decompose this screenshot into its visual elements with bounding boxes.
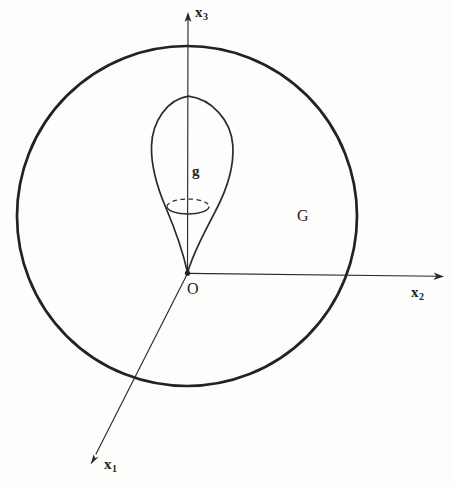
outer-region-label: G <box>297 207 309 225</box>
x1-axis-label: x1 <box>104 456 117 473</box>
x1-axis-group <box>91 273 188 464</box>
x3-axis-label-base: x <box>195 4 203 20</box>
origin-point-marker <box>185 271 190 276</box>
figure-canvas: x3 x2 x1 O G g <box>0 0 452 486</box>
inner-subdomain-boundary <box>151 96 233 272</box>
x1-axis-label-base: x <box>104 456 112 472</box>
x3-axis-label: x3 <box>195 4 208 21</box>
x3-axis-label-subscript: 3 <box>203 11 208 22</box>
x2-axis-label: x2 <box>411 284 424 301</box>
x3-axis-group <box>185 12 192 273</box>
x2-axis-label-subscript: 2 <box>419 291 424 302</box>
x3-axis-line <box>188 17 189 273</box>
diagram-svg <box>0 0 452 486</box>
x2-axis-group <box>188 273 445 281</box>
inner-region-label: g <box>192 163 200 180</box>
x2-axis-label-base: x <box>411 284 419 300</box>
x2-axis-line <box>188 273 438 276</box>
x1-axis-label-subscript: 1 <box>112 463 117 474</box>
origin-label: O <box>187 280 199 298</box>
x1-arrow-head <box>91 455 99 465</box>
x1-axis-line <box>96 273 188 454</box>
